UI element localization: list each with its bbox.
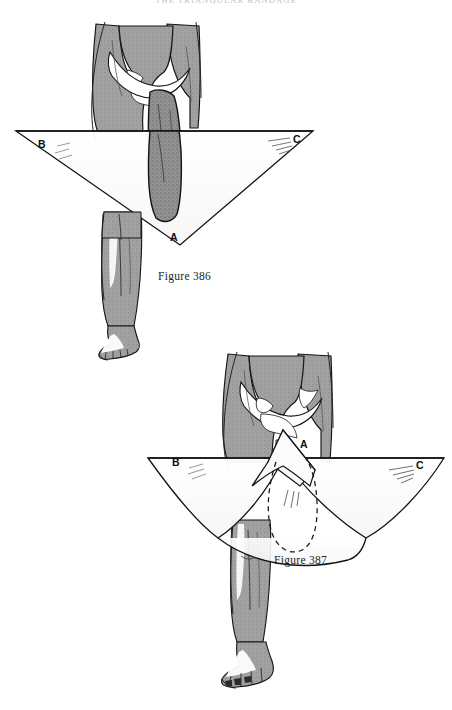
book-page: THE TRIANGULAR BANDAGE: [0, 0, 452, 710]
fold-hatch-387-left: [188, 464, 206, 479]
fold-hatch-386-left: [55, 143, 72, 159]
vertex-label-387-c: C: [416, 460, 424, 471]
triangular-bandage-386: [16, 131, 313, 245]
vertex-label-386-a: A: [170, 232, 178, 243]
vertex-label-387-b: B: [172, 457, 180, 468]
figure-387-illustration: [148, 352, 444, 688]
running-head: THE TRIANGULAR BANDAGE: [0, 0, 452, 3]
figure-caption-387: Figure 387: [274, 554, 327, 566]
fold-hatch-387-right: [389, 466, 414, 483]
fold-hatch-387-center: [284, 490, 299, 508]
figures-artwork: [0, 0, 452, 710]
fold-hatch-386-right: [268, 138, 292, 154]
vertex-label-387-a: A: [300, 439, 308, 450]
bandage-left-wing-387: [148, 458, 283, 538]
vertex-label-386-b: B: [38, 139, 46, 150]
figure-386-illustration: [16, 22, 313, 360]
vertex-label-386-c: C: [293, 134, 301, 145]
concealed-limb-dashed-387: [268, 458, 317, 552]
figure-caption-386: Figure 386: [158, 270, 211, 282]
